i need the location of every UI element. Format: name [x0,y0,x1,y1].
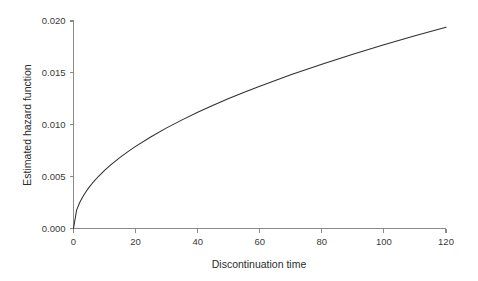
x-tick-label: 120 [438,236,454,247]
y-axis-title: Estimated hazard function [21,64,33,186]
x-tick-label: 40 [192,236,203,247]
y-tick-label: 0.005 [42,171,66,182]
x-tick-label: 100 [376,236,392,247]
y-tick-label: 0.015 [42,67,66,78]
y-tick-label: 0.010 [42,119,66,130]
x-tick-label: 20 [130,236,141,247]
y-tick-label: 0.000 [42,223,66,234]
x-tick-label: 60 [254,236,265,247]
x-tick-label: 0 [71,236,76,247]
chart-canvas: 0.0000.0050.0100.0150.020 Estimated haza… [0,0,478,281]
x-axis-title: Discontinuation time [212,258,307,270]
x-tick-label: 80 [317,236,328,247]
hazard-function-chart-figure: 0.0000.0050.0100.0150.020 Estimated haza… [0,0,478,281]
y-tick-label: 0.020 [42,15,66,26]
